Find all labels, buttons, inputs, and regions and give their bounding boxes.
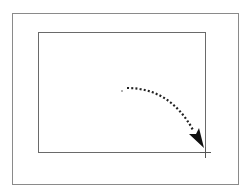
- outer-frame: [13, 14, 239, 185]
- drag-start-point: [121, 90, 123, 92]
- arrowhead-icon: [189, 128, 204, 148]
- diagram-canvas: [0, 0, 244, 191]
- diagram-svg: [0, 0, 244, 191]
- drag-path-dotted: [127, 88, 193, 130]
- inner-frame: [39, 33, 206, 153]
- crosshair-cursor-icon: [200, 147, 211, 158]
